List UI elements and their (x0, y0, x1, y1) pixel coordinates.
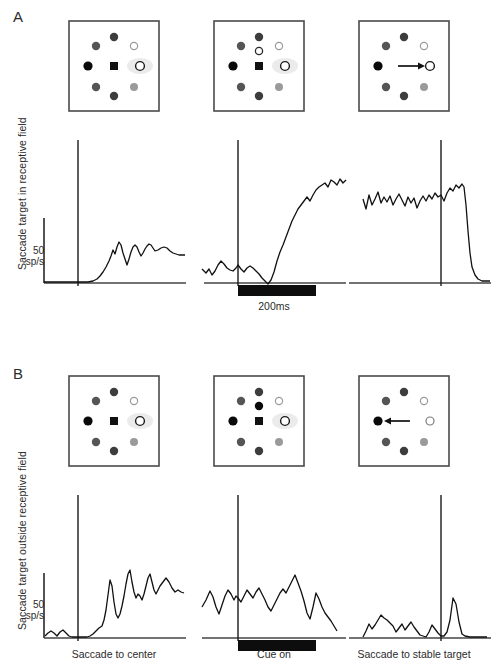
dot-lower-right (130, 83, 138, 91)
dot-upper-left (382, 397, 390, 405)
dot-top (400, 33, 408, 41)
figure-root: A Saccade target in receptive field 50 s… (0, 0, 494, 666)
stimulus-panel-a1 (68, 20, 160, 112)
dot-lower-right (420, 83, 428, 91)
spike-density-trace (363, 598, 487, 637)
fixation-square-icon (255, 417, 263, 425)
event-bar (238, 285, 316, 296)
spike-density-trace (45, 570, 184, 637)
dot-left (83, 61, 92, 70)
dot-upper-left (382, 42, 390, 50)
dot-upper-right (130, 42, 137, 49)
dot-lower-right (130, 438, 138, 446)
dot-right-target (426, 62, 435, 71)
dot-lower-right (275, 83, 283, 91)
dot-upper-left (237, 42, 245, 50)
dot-right-target (281, 417, 290, 426)
dot-lower-left (92, 438, 100, 446)
fixation-square-icon (255, 62, 263, 70)
spike-density-trace (363, 184, 490, 281)
dot-bottom (400, 92, 408, 100)
bottom-label-b2: Cue on (200, 648, 348, 660)
bottom-label-b3: Saccade to stable target (335, 648, 493, 660)
dot-lower-left (382, 83, 390, 91)
dot-upper-right (275, 397, 282, 404)
trace-a2 (200, 135, 348, 290)
dot-upper-right (420, 42, 427, 49)
dot-upper-left (237, 397, 245, 405)
dot-lower-right (275, 438, 283, 446)
dot-upper-left (92, 42, 100, 50)
dot-upper-left (92, 397, 100, 405)
cue-dot-filled (255, 402, 263, 410)
dot-right-target (281, 62, 290, 71)
trace-b1 (40, 490, 188, 645)
time-scale-label: 200ms (200, 300, 348, 312)
dot-upper-right (275, 42, 282, 49)
dot-left (228, 416, 237, 425)
dot-bottom (255, 447, 263, 455)
row-letter-a: A (13, 8, 23, 25)
dot-left-target (373, 416, 382, 425)
row-letter-b: B (13, 365, 23, 382)
stimulus-panel-b1 (68, 375, 160, 467)
fixation-square-icon (110, 417, 118, 425)
cue-dot-open (255, 47, 262, 54)
spike-density-trace (44, 242, 185, 282)
dot-upper-right (130, 397, 137, 404)
dot-lower-left (382, 438, 390, 446)
dot-bottom (400, 447, 408, 455)
dot-top (255, 33, 263, 41)
dot-lower-left (92, 83, 100, 91)
dot-lower-left (237, 83, 245, 91)
trace-a3 (345, 135, 493, 290)
trace-a1 (40, 135, 188, 290)
spike-density-trace (202, 179, 346, 284)
stimulus-panel-a3 (358, 20, 450, 112)
dot-bottom (110, 92, 118, 100)
trace-b2 (200, 490, 348, 645)
dot-bottom (110, 447, 118, 455)
stimulus-panel-b3 (358, 375, 450, 467)
trace-b3 (345, 490, 493, 645)
dot-top (110, 33, 118, 41)
dot-right (426, 417, 434, 425)
stimulus-panel-b2 (213, 375, 305, 467)
dot-top (255, 388, 263, 396)
dot-bottom (255, 92, 263, 100)
dot-upper-right (420, 397, 427, 404)
dot-left (373, 61, 382, 70)
bottom-label-b1: Saccade to center (40, 648, 188, 660)
dot-lower-right (420, 438, 428, 446)
dot-lower-left (237, 438, 245, 446)
spike-density-trace (202, 575, 337, 631)
dot-right-target (136, 417, 145, 426)
stimulus-panel-a2 (213, 20, 305, 112)
fixation-square-icon (110, 62, 118, 70)
dot-left (83, 416, 92, 425)
dot-top (400, 388, 408, 396)
dot-top (110, 388, 118, 396)
dot-left (228, 61, 237, 70)
dot-right-target (136, 62, 145, 71)
